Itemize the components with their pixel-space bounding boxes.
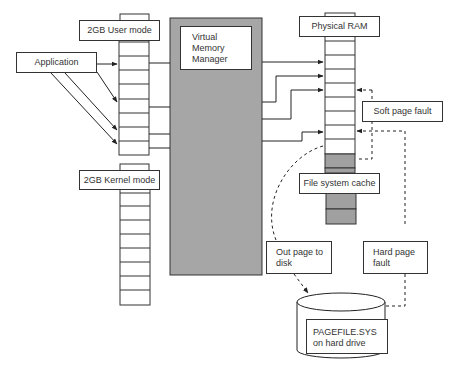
pagefile-label-line: PAGEFILE.SYS: [313, 327, 387, 338]
user-to-vmm-connectors: [149, 63, 170, 148]
hard-page-fault-label: Hard page fault: [363, 241, 428, 274]
pagefile-label-line: on hard drive: [313, 338, 387, 349]
vmm-label-line: Virtual: [192, 32, 251, 43]
vmm-to-ram-arrows: [262, 62, 323, 141]
file-system-cache-label: File system cache: [299, 173, 380, 194]
out-page-label-line: disk: [276, 258, 292, 269]
physical-ram-label: Physical RAM: [299, 16, 380, 37]
cache-cell: [326, 193, 356, 209]
out-page-label-line: Out page to: [276, 247, 323, 258]
hard-page-fault-lines: [386, 274, 405, 306]
cache-cell: [326, 209, 356, 224]
soft-page-fault-label: Soft page fault: [362, 101, 443, 122]
application-label[interactable]: Application: [16, 52, 97, 73]
hard-page-fault-label-line: fault: [373, 258, 390, 269]
vmm-label-line: Memory: [192, 43, 251, 54]
vmm-label: Virtual Memory Manager: [180, 26, 252, 70]
vmm-label-line: Manager: [192, 54, 251, 65]
user-mode-label: 2GB User mode: [79, 20, 160, 41]
cache-cell: [325, 154, 355, 168]
application-arrows: [51, 64, 117, 144]
pagefile-label: PAGEFILE.SYS on hard drive: [306, 319, 388, 354]
kernel-mode-label: 2GB Kernel mode: [79, 170, 160, 190]
hard-page-fault-label-line: Hard page: [373, 247, 415, 258]
out-page-label: Out page to disk: [266, 241, 332, 274]
